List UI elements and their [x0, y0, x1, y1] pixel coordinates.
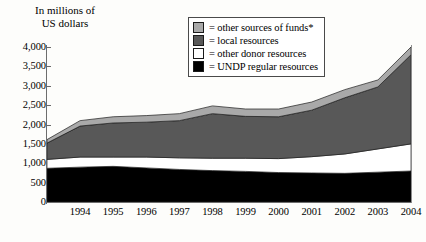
legend-label-undp_regular: = UNDP regular resources	[209, 61, 318, 72]
x-tick-label: 2004	[391, 206, 426, 217]
y-tick-label: 2,000	[0, 119, 52, 131]
legend-label-other_donor: = other donor resources	[209, 48, 306, 59]
axis-title: In millions of US dollars	[10, 4, 120, 29]
legend-item-other_donor: = other donor resources	[193, 47, 318, 60]
legend-item-undp_regular: = UNDP regular resources	[193, 60, 318, 73]
legend-swatch-undp_regular	[193, 61, 204, 72]
legend-swatch-other_donor	[193, 48, 204, 59]
legend-item-other_sources: = other sources of funds*	[193, 21, 318, 34]
x-axis-line	[46, 202, 412, 203]
legend-swatch-other_sources	[193, 22, 204, 33]
legend-swatch-local	[193, 35, 204, 46]
legend-label-other_sources: = other sources of funds*	[209, 22, 313, 33]
y-tick-label: 0	[0, 196, 52, 208]
y-tick-label: 2,500	[0, 99, 52, 111]
legend-item-local: = local resources	[193, 34, 318, 47]
legend-label-local: = local resources	[209, 35, 279, 46]
y-tick-label: 1,000	[0, 157, 52, 169]
y-tick-label: 1,500	[0, 138, 52, 150]
y-tick-label: 500	[0, 177, 52, 189]
y-tick-label: 3,000	[0, 80, 52, 92]
legend: = other sources of funds*= local resourc…	[188, 17, 325, 77]
y-tick-mark	[46, 202, 51, 203]
plot-right-border	[411, 45, 412, 203]
y-tick-label: 3,500	[0, 60, 52, 72]
y-tick-label: 4,000	[0, 41, 52, 53]
